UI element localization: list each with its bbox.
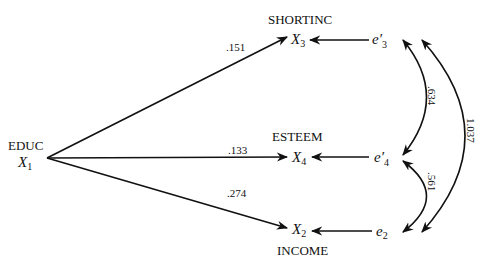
node-x1: X1 [17,154,32,172]
x4-caption: ESTEEM [272,129,323,144]
coef-x1-x3: .151 [226,41,245,53]
node-x3: X3 [290,31,305,49]
node-x3-subscript: 3 [300,38,305,49]
path-x1-x2 [47,158,287,228]
coef-x1-x4: .133 [228,144,248,156]
cov-e3-e4 [403,40,427,155]
x3-caption: SHORTINC [268,12,332,27]
cov-value-e4-e2: .561 [426,172,438,191]
node-x4-subscript: 4 [301,156,306,167]
cov-value-e3-e4: .634 [426,86,438,106]
path-diagram: EDUC X1 .151 .133 .274 SHORTINC X3 ESTEE… [0,0,490,269]
path-x1-x4 [47,157,287,158]
node-e2-subscript: 2 [383,230,388,241]
node-e3-subscript: 3 [382,39,387,50]
node-x4: X4 [291,149,306,167]
node-e3: e′3 [372,31,387,50]
node-e4: e′4 [374,149,389,168]
cov-value-e3-e2: 1.037 [465,118,477,143]
node-e2: e2 [376,223,388,241]
node-e4-subscript: 4 [384,157,389,168]
x2-caption: INCOME [277,243,328,258]
node-x2: X2 [291,221,306,239]
cov-e4-e2 [403,161,427,232]
node-x2-subscript: 2 [301,228,306,239]
cov-e3-e2 [422,40,465,232]
coef-x1-x2: .274 [227,187,247,199]
educ-caption: EDUC [8,138,43,153]
path-x1-x3 [47,37,287,158]
node-x1-subscript: 1 [27,161,32,172]
